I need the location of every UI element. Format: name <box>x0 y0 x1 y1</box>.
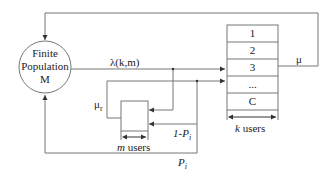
server-slot-3: 3 <box>227 59 278 76</box>
k-users-text: users <box>240 122 265 134</box>
orbit-box <box>121 101 148 131</box>
finite-population-label: Finite Population M <box>18 47 72 86</box>
m-variable: m <box>117 141 125 153</box>
retrial-rate-subscript: r <box>100 104 103 113</box>
server-slot-1: 1 <box>227 25 278 42</box>
retry-prob-text: 1-P <box>173 127 189 139</box>
blocked-to-orbit-line <box>149 69 173 110</box>
leave-probability-label: Pi <box>178 156 187 173</box>
source-line-3: M <box>18 73 72 86</box>
source-line-2: Population <box>18 60 72 73</box>
retry-probability-label: 1-Pi <box>173 127 191 144</box>
leave-prob-subscript: i <box>185 162 187 171</box>
server-slot-2: 2 <box>227 42 278 59</box>
diagram-lines <box>0 0 335 176</box>
m-users-text: users <box>125 141 150 153</box>
leave-prob-text: P <box>178 156 185 168</box>
server-slot-ellipsis: ... <box>227 76 278 93</box>
retry-prob-subscript: i <box>189 133 191 142</box>
arrival-rate-label: λ(k,m) <box>110 56 139 68</box>
m-users-label: m users <box>117 141 150 153</box>
source-line-1: Finite <box>18 47 72 60</box>
server-slot-c: C <box>227 93 278 110</box>
retrial-rate-label: μr <box>94 98 103 115</box>
retrial-arrival-line <box>107 81 225 118</box>
k-users-label: k users <box>235 122 265 134</box>
queueing-diagram: Finite Population M λ(k,m) μ μr 1 2 3 ..… <box>0 0 335 176</box>
service-rate-label: μ <box>296 53 302 65</box>
